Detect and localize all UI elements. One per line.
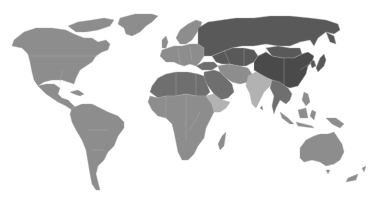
region-madagascar (218, 132, 226, 150)
region-indonesia (280, 108, 316, 128)
region-caribbean (70, 90, 84, 96)
region-uk (162, 36, 168, 48)
region-new-zealand (346, 166, 366, 182)
region-australia (300, 132, 344, 166)
region-sub-saharan-africa (148, 94, 214, 160)
region-philippines (302, 92, 310, 106)
region-greenland (118, 14, 158, 36)
region-arctic-islands (68, 18, 114, 32)
world-map (0, 0, 388, 202)
region-central-america (38, 84, 76, 110)
region-new-guinea (326, 118, 344, 128)
region-europe (160, 44, 204, 66)
region-tasmania (326, 170, 330, 174)
region-north-africa (150, 72, 210, 98)
region-japan (316, 54, 326, 72)
region-south-america (70, 104, 124, 190)
region-sri-lanka (260, 106, 263, 110)
region-turkey (196, 62, 218, 70)
